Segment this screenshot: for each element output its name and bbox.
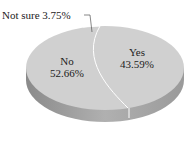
pie-chart [0,0,192,143]
label-no: No 52.66% [42,55,92,79]
label-yes-pct: 43.59% [112,58,162,70]
label-no-pct: 52.66% [42,67,92,79]
label-no-name: No [42,55,92,67]
label-yes: Yes 43.59% [112,46,162,70]
label-yes-name: Yes [112,46,162,58]
label-not-sure: Not sure 3.75% [2,9,71,21]
